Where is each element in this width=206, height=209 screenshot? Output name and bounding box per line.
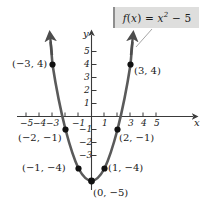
point-label-3-4: (3, 4) [134, 66, 161, 76]
x-tick-label-4: 4 [141, 119, 147, 128]
y-tick-label-3: 3 [84, 73, 90, 82]
x-axis-label: x [194, 118, 200, 128]
y-axis [92, 35, 97, 190]
point-label-neg3-4: (−3, 4) [12, 59, 47, 69]
x-tick-label-5: 5 [154, 119, 160, 128]
point-label-neg2-neg1: (−2, −1) [18, 133, 62, 143]
x-tick-label-3: 3 [128, 119, 134, 128]
point-label-2-neg1: (2, −1) [119, 133, 154, 143]
x-tick-label-neg3: −3 [46, 119, 59, 128]
point-label-0-neg5: (0, −5) [93, 188, 128, 198]
y-tick-label-neg1: −1 [79, 125, 92, 134]
point-0-neg5 [88, 178, 95, 185]
point-neg2-neg1 [62, 126, 68, 132]
x-tick-label-neg5: −5 [20, 119, 33, 128]
y-tick-label-4: 4 [84, 60, 90, 69]
callout-leader-line [136, 29, 152, 47]
equation-callout-box: f(x) = x2 − 5 [113, 7, 199, 28]
y-tick-label-1: 1 [84, 99, 90, 108]
point-neg3-4 [49, 61, 55, 67]
x-tick-label-1: 1 [102, 119, 108, 128]
plot-canvas [0, 0, 206, 209]
equation-equals: = [141, 12, 157, 24]
parabola-graph-figure: f(x) = x2 − 5 y x −5 −4 −3 −1 1 3 4 5 5 … [0, 0, 206, 209]
y-axis-label: y [83, 29, 89, 39]
point-label-1-neg4: (1, −4) [108, 163, 143, 173]
x-axis [17, 113, 193, 117]
y-tick-label-5: 5 [84, 47, 90, 56]
point-1-neg4 [101, 165, 107, 171]
equation-constant: 5 [184, 12, 191, 24]
y-tick-label-neg3: −3 [79, 151, 92, 160]
point-3-4 [127, 61, 133, 67]
y-tick-label-2: 2 [84, 86, 90, 95]
equation-minus: − [168, 12, 184, 24]
point-label-neg1-neg4: (−1, −4) [22, 163, 66, 173]
x-tick-label-neg4: −4 [33, 119, 46, 128]
y-tick-label-neg2: −2 [79, 138, 92, 147]
point-neg1-neg4 [75, 165, 81, 171]
equation-text: f(x) = x2 − 5 [123, 11, 192, 24]
